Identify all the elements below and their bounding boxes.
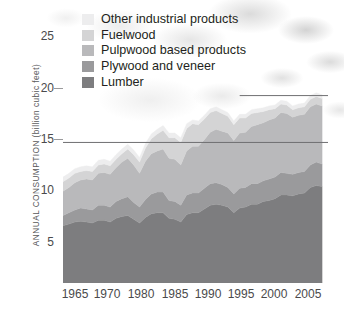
legend-item-lumber: Lumber [82,75,246,89]
x-tick-label-1990: 1990 [191,288,225,300]
legend-swatch-fuelwood [82,30,94,41]
legend-swatch-plywood-and-veneer [82,61,94,72]
y-tick-label-5: 5 [28,236,54,248]
x-tick-label-1965: 1965 [58,288,92,300]
y-tick-label-20: 20 [28,82,54,94]
legend-label-other-industrial-products: Other industrial products [101,13,238,26]
y-tick-label-25: 25 [28,30,54,42]
legend-label-lumber: Lumber [101,76,144,89]
legend-item-pulpwood-based-products: Pulpwood based products [82,44,246,58]
legend-label-fuelwood: Fuelwood [101,29,156,42]
legend-item-plywood-and-veneer: Plywood and veneer [82,60,246,74]
y-tick-label-15: 15 [28,133,54,145]
x-tick-label-1980: 1980 [124,288,158,300]
legend-swatch-other-industrial-products [82,14,94,25]
legend-label-plywood-and-veneer: Plywood and veneer [101,60,215,73]
legend-swatch-pulpwood-based-products [82,45,94,56]
x-tick-label-1995: 1995 [224,288,258,300]
legend-item-other-industrial-products: Other industrial products [82,13,246,27]
chart-figure: ANNUAL CONSUMPTION (billion cubic feet) … [0,0,344,312]
x-tick-label-2000: 2000 [257,288,291,300]
legend: Other industrial products Fuelwood Pulpw… [82,13,246,89]
x-tick-label-1985: 1985 [158,288,192,300]
legend-swatch-lumber [82,77,94,88]
y-tick-mark-20 [54,88,63,89]
y-tick-mark-15 [54,139,63,140]
legend-label-pulpwood-based-products: Pulpwood based products [101,44,246,57]
x-tick-label-2005: 2005 [291,288,325,300]
legend-item-fuelwood: Fuelwood [82,29,246,43]
x-tick-label-1970: 1970 [90,288,124,300]
y-tick-label-10: 10 [28,184,54,196]
